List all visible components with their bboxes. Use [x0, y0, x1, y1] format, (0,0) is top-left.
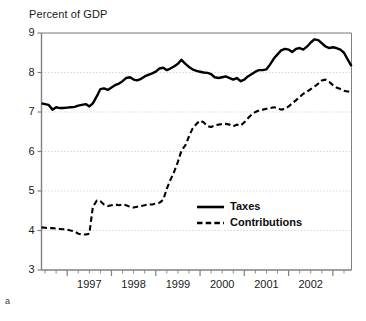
series-line-taxes — [42, 39, 352, 109]
grid-lines — [42, 33, 352, 231]
y-tick-label-7: 7 — [28, 105, 34, 117]
data-series-layer — [42, 39, 352, 234]
chart-figure: Percent of GDP 3456789 19971998199920002… — [0, 0, 366, 321]
panel-label: a — [5, 296, 10, 306]
y-axis-tick-labels: 3456789 — [28, 26, 34, 275]
y-tick-label-5: 5 — [28, 184, 34, 196]
chart-legend: TaxesContributions — [197, 200, 302, 228]
y-tick-label-9: 9 — [28, 26, 34, 38]
x-tick-label-1999: 1999 — [166, 278, 190, 290]
series-line-contributions — [42, 80, 352, 235]
y-tick-label-8: 8 — [28, 66, 34, 78]
legend-label-taxes: Taxes — [230, 200, 260, 212]
line-chart-plot: 3456789 199719981999200020012002 TaxesCo… — [0, 0, 366, 321]
y-tick-label-6: 6 — [28, 145, 34, 157]
y-tick-label-3: 3 — [28, 263, 34, 275]
x-axis-tick-labels: 199719981999200020012002 — [77, 278, 323, 290]
x-tick-label-1998: 1998 — [121, 278, 145, 290]
y-tick-label-4: 4 — [28, 224, 34, 236]
legend-label-contributions: Contributions — [230, 216, 302, 228]
x-tick-label-2001: 2001 — [254, 278, 278, 290]
x-tick-label-1997: 1997 — [77, 278, 101, 290]
x-tick-label-2002: 2002 — [299, 278, 323, 290]
x-tick-label-2000: 2000 — [210, 278, 234, 290]
